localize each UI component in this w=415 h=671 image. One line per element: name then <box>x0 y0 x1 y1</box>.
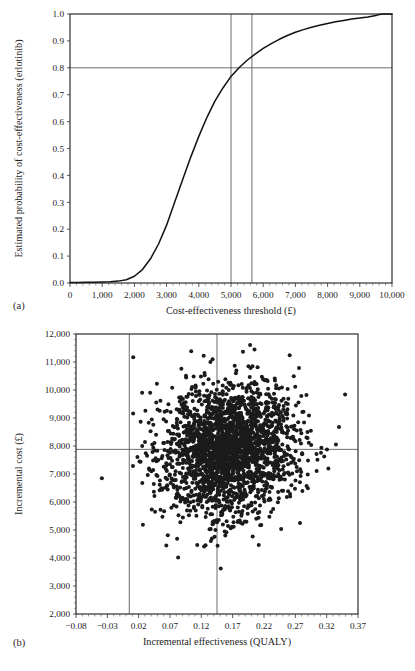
scatter-point <box>254 472 258 476</box>
scatter-point <box>256 458 260 462</box>
scatter-point <box>222 497 226 501</box>
scatter-point <box>195 458 199 462</box>
scatter-point <box>299 431 303 435</box>
scatter-point <box>263 487 267 491</box>
scatter-point <box>177 494 181 498</box>
y-tick-label-5: 0.5 <box>53 144 65 154</box>
scatter-point <box>139 420 143 424</box>
scatter-point <box>212 409 216 413</box>
scatter-point <box>202 474 206 478</box>
scatter-point <box>280 442 284 446</box>
scatter-point <box>270 486 274 490</box>
scatter-point <box>277 419 281 423</box>
scatter-point <box>230 460 234 464</box>
scatter-point <box>215 460 219 464</box>
scatter-point <box>285 410 289 414</box>
scatter-point <box>319 451 323 455</box>
scatter-point <box>219 566 223 570</box>
y-tick-label-6: 0.6 <box>53 117 65 127</box>
scatter-point <box>174 496 178 500</box>
scatter-point <box>241 469 245 473</box>
scatter-point <box>260 494 264 498</box>
scatter-point <box>234 491 238 495</box>
scatter-point <box>176 426 180 430</box>
scatter-point <box>160 456 164 460</box>
scatter-point <box>334 443 338 447</box>
y-tick-label-8: 10,000 <box>45 385 71 395</box>
scatter-point <box>181 408 185 412</box>
y-tick-label-10: 12,000 <box>45 329 71 339</box>
scatter-point <box>297 366 301 370</box>
scatter-point <box>183 424 187 428</box>
scatter-point <box>199 500 203 504</box>
scatter-point <box>242 429 246 433</box>
scatter-point <box>274 383 278 387</box>
scatter-point <box>280 430 284 434</box>
scatter-point <box>245 493 249 497</box>
scatter-point <box>286 397 290 401</box>
scatter-point <box>264 402 268 406</box>
scatter-point <box>220 476 224 480</box>
scatter-point <box>219 480 223 484</box>
scatter-point <box>249 395 253 399</box>
scatter-point <box>204 511 208 515</box>
scatter-point <box>225 392 229 396</box>
scatter-point <box>210 472 214 476</box>
y-tick-label-7: 0.7 <box>53 90 65 100</box>
scatter-point <box>178 520 182 524</box>
scatter-point <box>248 375 252 379</box>
scatter-point <box>201 449 205 453</box>
scatter-point <box>213 528 217 532</box>
scatter-point <box>294 478 298 482</box>
scatter-point <box>182 430 186 434</box>
scatter-point <box>237 501 241 505</box>
scatter-point <box>257 516 261 520</box>
scatter-point <box>205 500 209 504</box>
scatter-point <box>141 523 145 527</box>
y-axis-title: Incremental cost (£) <box>13 433 25 515</box>
scatter-point <box>181 453 185 457</box>
scatter-point <box>256 463 260 467</box>
scatter-point <box>209 421 213 425</box>
y-tick-label-1: 0.1 <box>53 251 65 261</box>
scatter-point <box>255 453 259 457</box>
scatter-point <box>269 424 273 428</box>
scatter-point <box>246 443 250 447</box>
scatter-point <box>166 533 170 537</box>
scatter-point <box>152 490 156 494</box>
scatter-point <box>241 350 245 354</box>
scatter-point <box>230 455 234 459</box>
scatter-point <box>173 473 177 477</box>
scatter-point <box>245 408 249 412</box>
scatter-point <box>295 465 299 469</box>
scatter-point <box>166 402 170 406</box>
scatter-point <box>291 413 295 417</box>
scatter-point <box>221 389 225 393</box>
scatter-point <box>162 509 166 513</box>
scatter-point <box>219 420 223 424</box>
scatter-point <box>270 473 274 477</box>
scatter-point <box>204 543 208 547</box>
scatter-point <box>309 429 313 433</box>
scatter-point <box>197 495 201 499</box>
y-tick-label-1: 3,000 <box>49 581 70 591</box>
y-tick-label-4: 0.4 <box>53 171 65 181</box>
x-tick-label-0: 0 <box>68 290 73 300</box>
scatter-point <box>337 425 341 429</box>
scatter-point <box>207 453 211 457</box>
scatter-point <box>276 463 280 467</box>
scatter-point <box>234 510 238 514</box>
scatter-point <box>228 508 232 512</box>
scatter-point <box>150 442 154 446</box>
scatter-point <box>256 387 260 391</box>
scatter-point <box>149 469 153 473</box>
scatter-point <box>231 405 235 409</box>
scatter-point <box>194 509 198 513</box>
scatter-point <box>234 371 238 375</box>
scatter-point <box>226 406 230 410</box>
scatter-point <box>195 408 199 412</box>
scatter-point <box>245 465 249 469</box>
scatter-point <box>159 486 163 490</box>
panel-b-letter: (b) <box>13 637 25 648</box>
scatter-point <box>150 418 154 422</box>
